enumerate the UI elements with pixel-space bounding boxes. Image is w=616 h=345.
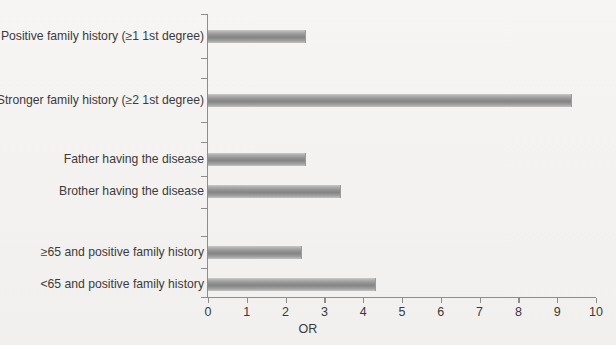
bar	[208, 246, 302, 259]
plot-area: Positive family history (≥1 1st degree)S…	[0, 0, 616, 345]
y-axis-tick	[201, 142, 207, 143]
x-axis-tick	[363, 298, 364, 303]
y-axis-tick	[201, 208, 207, 209]
x-axis-tick	[480, 298, 481, 303]
x-axis-tick	[208, 298, 209, 303]
category-label: Positive family history (≥1 1st degree)	[1, 29, 204, 43]
x-axis-tick-label: 2	[282, 305, 289, 319]
y-axis-tick	[201, 58, 207, 59]
bar	[208, 153, 306, 166]
x-axis-tick-label: 9	[554, 305, 561, 319]
x-axis-tick-label: 1	[243, 305, 250, 319]
x-axis-tick	[324, 298, 325, 303]
x-axis-tick	[596, 298, 597, 303]
category-label: Father having the disease	[64, 152, 204, 166]
x-axis-tick-label: 3	[321, 305, 328, 319]
x-axis-title: OR	[0, 322, 616, 336]
x-axis-tick-label: 7	[476, 305, 483, 319]
x-axis-tick-label: 10	[589, 305, 603, 319]
x-axis-tick-label: 0	[205, 305, 212, 319]
x-axis-tick	[402, 298, 403, 303]
y-axis-tick	[201, 122, 207, 123]
y-axis-tick	[201, 176, 207, 177]
bar	[208, 94, 572, 107]
x-axis-tick	[441, 298, 442, 303]
x-axis-tick	[247, 298, 248, 303]
category-label: Stronger family history (≥2 1st degree)	[0, 93, 204, 107]
bar-chart: Positive family history (≥1 1st degree)S…	[0, 0, 616, 345]
x-axis-tick	[286, 298, 287, 303]
y-axis-tick	[201, 268, 207, 269]
y-axis-tick	[201, 14, 207, 15]
x-axis-tick	[557, 298, 558, 303]
bar	[208, 185, 341, 198]
bar	[208, 278, 376, 291]
x-axis-tick-label: 5	[399, 305, 406, 319]
y-axis-tick	[201, 236, 207, 237]
category-label: ≥65 and positive family history	[41, 245, 204, 259]
x-axis-tick	[518, 298, 519, 303]
category-label: <65 and positive family history	[40, 277, 204, 291]
x-axis-tick-label: 6	[437, 305, 444, 319]
bar	[208, 30, 306, 43]
category-label: Brother having the disease	[59, 184, 204, 198]
x-axis-tick-label: 4	[360, 305, 367, 319]
x-axis-tick-label: 8	[515, 305, 522, 319]
y-axis-tick	[201, 297, 207, 298]
y-axis-tick	[201, 78, 207, 79]
